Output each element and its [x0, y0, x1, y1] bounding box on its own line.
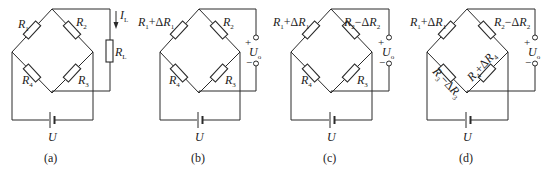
- source-label-b: U: [195, 130, 205, 144]
- caption-c: (c): [323, 151, 336, 165]
- source-label-a: U: [48, 130, 58, 144]
- caption-a: (a): [44, 151, 57, 165]
- svg-text:RL: RL: [114, 45, 127, 61]
- terminal-plus: [387, 35, 392, 40]
- terminal-plus: [533, 35, 538, 40]
- svg-text:R1+ΔR1: R1+ΔR1: [137, 15, 175, 31]
- terminal-minus: [533, 61, 538, 66]
- load-resistor: [106, 40, 113, 62]
- svg-text:IL: IL: [119, 8, 128, 24]
- svg-text:R3: R3: [224, 73, 236, 89]
- svg-text:R2−ΔR2: R2−ΔR2: [493, 15, 531, 31]
- svg-text:R1: R1: [17, 17, 29, 33]
- panel-d: R1+ΔR1 R2−ΔR2 R3−ΔR3 R4+ΔR4 + Uo − U (d): [409, 9, 541, 165]
- caption-d: (d): [459, 151, 473, 165]
- terminal-minus: [387, 61, 392, 66]
- svg-text:R1+ΔR1: R1+ΔR1: [272, 15, 310, 31]
- panel-c: R1+ΔR1 R2−ΔR2 R4 R3 + Uo − U (c): [272, 9, 395, 165]
- terminal-minus: [254, 61, 259, 66]
- svg-text:−: −: [246, 56, 252, 68]
- svg-text:−: −: [525, 56, 531, 68]
- bridge-circuits-figure: R1 R2 R4 R3 RL IL U (a) R1+ΔR1 R2 R4 R3 …: [0, 0, 547, 176]
- terminal-plus: [254, 35, 259, 40]
- svg-text:R2: R2: [75, 15, 87, 31]
- svg-text:R2: R2: [222, 15, 234, 31]
- panel-b: R1+ΔR1 R2 R4 R3 + Uo − U (b): [137, 9, 262, 165]
- svg-text:−: −: [379, 56, 385, 68]
- panel-a: R1 R2 R4 R3 RL IL U (a): [12, 8, 128, 165]
- svg-text:R3: R3: [77, 73, 89, 89]
- caption-b: (b): [191, 151, 205, 165]
- source-label-c: U: [327, 130, 337, 144]
- source-label-d: U: [463, 130, 473, 144]
- svg-text:R2−ΔR2: R2−ΔR2: [343, 15, 381, 31]
- svg-text:R1+ΔR1: R1+ΔR1: [409, 15, 447, 31]
- svg-text:R3: R3: [356, 73, 368, 89]
